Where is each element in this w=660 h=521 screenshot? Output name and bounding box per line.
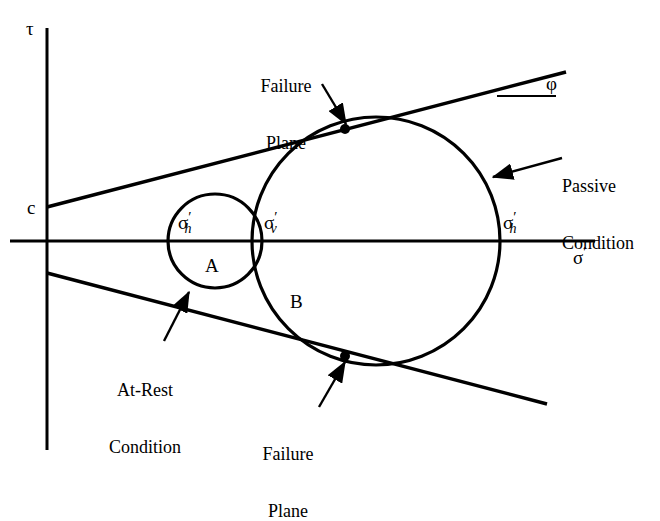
failure-plane-bottom-label: Failure Plane — [248, 408, 328, 521]
at-rest-circle-letter: A — [205, 256, 219, 276]
failure-plane-top-line2: Plane — [246, 134, 326, 153]
passive-condition-label: Passive Condition — [562, 140, 658, 290]
subscript-glyph: h — [185, 221, 192, 236]
failure-point-upper-dot — [340, 124, 350, 134]
at-rest-condition-line2: Condition — [95, 438, 195, 457]
passive-sigma-h-label: σ′h — [503, 212, 524, 234]
passive-condition-arrow — [493, 158, 562, 177]
failure-plane-top-label: Failure Plane — [246, 40, 326, 190]
passive-condition-line2: Condition — [562, 234, 658, 253]
passive-circle-letter: B — [290, 292, 303, 312]
phi-angle-label: φ — [546, 74, 557, 94]
at-rest-sigma-h-label: σ′h — [178, 212, 199, 234]
passive-condition-line1: Passive — [562, 177, 658, 196]
failure-plane-top-line1: Failure — [246, 77, 326, 96]
subscript-glyph: h — [510, 221, 517, 236]
failure-point-lower-dot — [340, 351, 350, 361]
failure-plane-bottom-arrow — [319, 362, 345, 407]
at-rest-sigma-v-label: σ′v — [264, 212, 284, 234]
failure-plane-bottom-line1: Failure — [248, 445, 328, 464]
at-rest-condition-arrow — [164, 292, 189, 341]
at-rest-condition-label: At-Rest Condition — [95, 344, 195, 494]
failure-plane-bottom-line2: Plane — [248, 502, 328, 521]
at-rest-condition-line1: At-Rest — [95, 381, 195, 400]
cohesion-label: c — [27, 198, 35, 218]
tau-axis-label: τ — [26, 19, 34, 39]
subscript-glyph: v — [271, 221, 277, 236]
